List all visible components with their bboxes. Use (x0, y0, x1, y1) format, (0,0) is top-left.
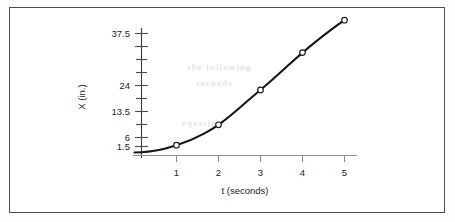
y-tick-label-37-5: 37.5 (112, 28, 131, 39)
scanned-page: the following seconds equation 37.5 24 1… (0, 0, 455, 222)
x-tick-label-4: 4 (300, 167, 305, 178)
x-tick-label-3: 3 (258, 167, 263, 178)
data-curve (135, 20, 345, 152)
data-point-t3 (258, 87, 264, 93)
chart-plot-area: 37.5 24 13.5 6 1.5 1 2 3 4 5 t (seconds)… (0, 0, 455, 222)
x-tick-label-2: 2 (216, 167, 221, 178)
x-axis-title: t (seconds) (222, 185, 269, 196)
data-point-t5 (342, 17, 348, 23)
y-axis-title: X (in.) (76, 84, 87, 109)
y-tick-label-24: 24 (119, 80, 130, 91)
x-tick-label-5: 5 (342, 167, 347, 178)
data-point-t2 (216, 122, 222, 128)
data-point-t1 (174, 142, 180, 148)
y-tick-label-13-5: 13.5 (112, 106, 131, 117)
x-tick-label-1: 1 (174, 167, 179, 178)
y-tick-label-1-5: 1.5 (117, 141, 130, 152)
data-point-t4 (300, 50, 306, 56)
